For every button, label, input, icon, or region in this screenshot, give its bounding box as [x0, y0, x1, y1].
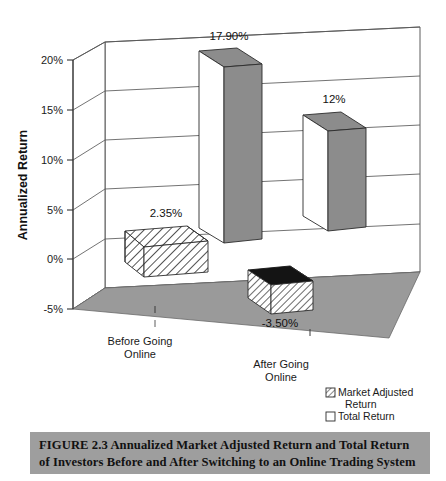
y-axis-title: Annualized Return	[16, 130, 30, 240]
y-tick-labels: 20% 15% 10% 5% 0% -5%	[41, 54, 63, 315]
legend-label-total-return: Total Return	[338, 410, 395, 422]
legend: Market Adjusted Return Total Return	[326, 386, 413, 422]
bar-before-market-adjusted[interactable]	[125, 226, 208, 277]
legend-label-market-adjusted-line1: Market Adjusted	[338, 386, 413, 398]
left-side-wall	[73, 42, 105, 309]
bar-before-total-return[interactable]	[199, 48, 262, 243]
figure-caption-text: FIGURE 2.3 Annualized Market Adjusted Re…	[39, 437, 421, 471]
legend-swatch-total-return[interactable]	[326, 412, 335, 421]
value-label-before-market-adjusted: 2.35%	[150, 207, 183, 219]
y-axis	[67, 60, 73, 309]
bar-after-total-return[interactable]	[303, 112, 366, 231]
x-category-labels: Before Going Online After Going Online	[108, 335, 309, 383]
annualized-return-3d-bar-chart: 20% 15% 10% 5% 0% -5% Annualized Return …	[0, 0, 446, 430]
value-label-after-market-adjusted: -3.50%	[262, 317, 298, 329]
legend-swatch-market-adjusted[interactable]	[326, 388, 335, 397]
figure-container: 20% 15% 10% 5% 0% -5% Annualized Return …	[0, 0, 446, 481]
y-tick-label: 10%	[41, 154, 63, 166]
value-label-before-total-return: 17.90%	[209, 30, 248, 42]
value-label-after-total-return: 12%	[322, 93, 345, 105]
y-tick-label: -5%	[43, 303, 63, 315]
legend-label-market-adjusted-line2: Return	[345, 398, 377, 410]
y-tick-label: 15%	[41, 104, 63, 116]
y-tick-label: 5%	[47, 204, 63, 216]
x-label-before-line1: Before Going	[108, 335, 173, 347]
x-label-after-line1: After Going	[253, 358, 309, 370]
figure-caption-bar: FIGURE 2.3 Annualized Market Adjusted Re…	[30, 432, 430, 474]
x-label-after-line2: Online	[265, 371, 297, 383]
x-label-before-line2: Online	[124, 348, 156, 360]
y-tick-label: 0%	[47, 253, 63, 265]
y-tick-label: 20%	[41, 54, 63, 66]
